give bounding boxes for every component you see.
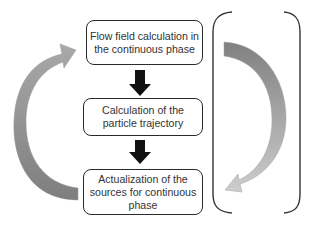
step-2-line-2: particle trajectory (102, 117, 184, 130)
down-arrow-1 (129, 70, 151, 96)
step-1-line-1: Flow field calculation in (90, 30, 199, 43)
curved-feedback-arrow-left (14, 44, 78, 200)
step-box-actualization-sources: Actualization of the sources for continu… (83, 169, 203, 215)
step-box-flow-field: Flow field calculation in the continuous… (86, 20, 203, 65)
step-1-line-2: the continuous phase (90, 43, 199, 56)
step-3-line-1: Actualization of the (90, 173, 197, 186)
step-3-line-2: sources for continuous (90, 186, 197, 199)
curved-arrow-right (224, 42, 286, 192)
step-2-line-1: Calculation of the (102, 104, 184, 117)
step-3-line-3: phase (90, 199, 197, 212)
down-arrow-2 (129, 140, 151, 164)
step-box-particle-trajectory: Calculation of the particle trajectory (83, 98, 203, 136)
